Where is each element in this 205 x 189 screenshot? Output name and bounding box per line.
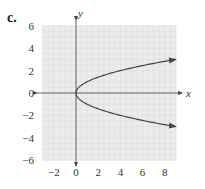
x-tick-label: −2 xyxy=(48,166,60,178)
y-tick-label: 2 xyxy=(29,65,35,77)
x-tick-label: 4 xyxy=(118,166,124,178)
y-tick-label: −4 xyxy=(22,132,34,144)
y-tick-label: −6 xyxy=(22,154,34,166)
x-tick-label: 6 xyxy=(140,166,146,178)
x-tick-label: 2 xyxy=(95,166,101,178)
parabola-chart: xy−2024686420−2−4−6 xyxy=(0,0,205,189)
y-axis-label: y xyxy=(77,7,83,19)
y-tick-label: 6 xyxy=(29,20,35,32)
x-tick-label: 8 xyxy=(162,166,168,178)
y-tick-label: 0 xyxy=(29,87,35,99)
y-tick-label: −2 xyxy=(22,109,34,121)
x-tick-label: 0 xyxy=(73,166,79,178)
y-tick-label: 4 xyxy=(29,42,35,54)
x-axis-label: x xyxy=(185,87,191,99)
